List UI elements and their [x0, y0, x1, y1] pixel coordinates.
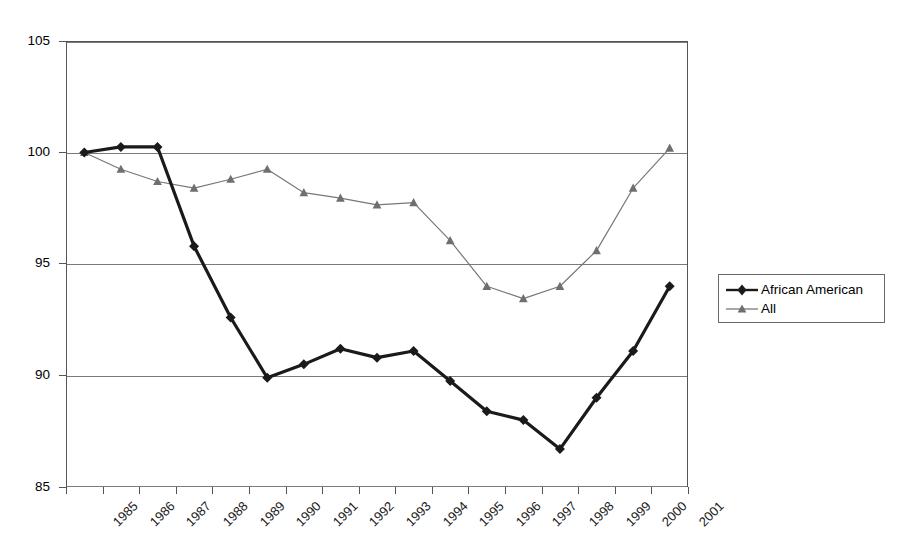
x-tick-label-1991: 1991: [330, 499, 360, 529]
triangle-marker-icon: [725, 300, 759, 318]
chart-canvas: 105 100 95 90 85 19851986198719881989199…: [0, 0, 917, 556]
legend-label-african-american: African American: [761, 283, 863, 297]
x-tick-label-1997: 1997: [550, 499, 580, 529]
x-tick-label-1999: 1999: [623, 499, 653, 529]
gridline-90: [67, 376, 687, 377]
chart-legend: African American All: [718, 274, 885, 323]
x-tick-label-1990: 1990: [294, 499, 324, 529]
y-tick-mark-90: [59, 375, 66, 376]
x-tick-label-1989: 1989: [257, 499, 287, 529]
diamond-marker-icon: [725, 281, 759, 299]
gridline-105: [67, 42, 687, 43]
x-tick-label-2000: 2000: [660, 499, 690, 529]
x-tick-label-1998: 1998: [586, 499, 616, 529]
y-tick-label-95: 95: [35, 256, 50, 270]
gridline-95: [67, 264, 687, 265]
x-tick-label-1996: 1996: [513, 499, 543, 529]
x-axis: 1985198619871988198919901991199219931994…: [0, 487, 917, 556]
y-tick-label-100: 100: [27, 145, 50, 159]
y-tick-mark-95: [59, 263, 66, 264]
x-tick-label-1988: 1988: [221, 499, 251, 529]
x-tick-label-1987: 1987: [184, 499, 214, 529]
x-tick-label-2001: 2001: [696, 499, 726, 529]
plot-area: [66, 41, 688, 487]
x-tick-label-1993: 1993: [403, 499, 433, 529]
legend-entry-african-american[interactable]: African American: [725, 280, 878, 299]
gridline-100: [67, 153, 687, 154]
legend-label-all: All: [761, 302, 776, 316]
legend-entry-all[interactable]: All: [725, 299, 878, 318]
y-tick-label-90: 90: [35, 368, 50, 382]
x-tick-label-1986: 1986: [147, 499, 177, 529]
x-tick-label-1992: 1992: [367, 499, 397, 529]
y-tick-mark-105: [59, 41, 66, 42]
x-tick-label-1985: 1985: [111, 499, 141, 529]
y-axis: 105 100 95 90 85: [0, 0, 66, 556]
x-tick-label-1994: 1994: [440, 499, 470, 529]
y-tick-label-105: 105: [27, 34, 50, 48]
y-tick-mark-100: [59, 152, 66, 153]
x-tick-label-1995: 1995: [477, 499, 507, 529]
